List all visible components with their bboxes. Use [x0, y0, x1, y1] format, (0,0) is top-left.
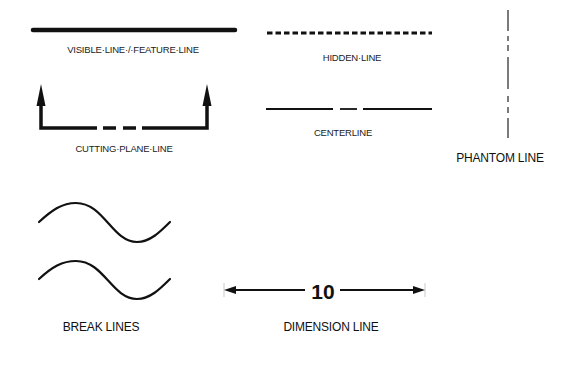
hidden-line-label: HIDDEN·LINE	[323, 53, 382, 63]
cutting-plane-line	[41, 100, 207, 128]
cutting-plane-arrow-left	[37, 84, 46, 106]
break-lines-label: BREAK LINES	[63, 321, 140, 333]
centerline-label: CENTERLINE	[314, 128, 372, 138]
dimension-arrow-right	[413, 286, 425, 294]
break-line-bottom	[39, 261, 170, 299]
phantom-line-label: PHANTOM LINE	[456, 152, 543, 164]
dimension-line-label: DIMENSION LINE	[283, 321, 378, 333]
dimension-arrow-left	[224, 286, 236, 294]
dimension-value: 10	[311, 281, 334, 302]
visible-line-label: VISIBLE·LINE·/·FEATURE·LINE	[67, 45, 199, 55]
line-types-diagram: VISIBLE·LINE·/·FEATURE·LINE CUTTING·PLAN…	[0, 0, 585, 381]
cutting-plane-line-label: CUTTING·PLANE·LINE	[75, 144, 172, 154]
cutting-plane-arrow-right	[203, 84, 212, 106]
break-line-top	[39, 203, 170, 242]
